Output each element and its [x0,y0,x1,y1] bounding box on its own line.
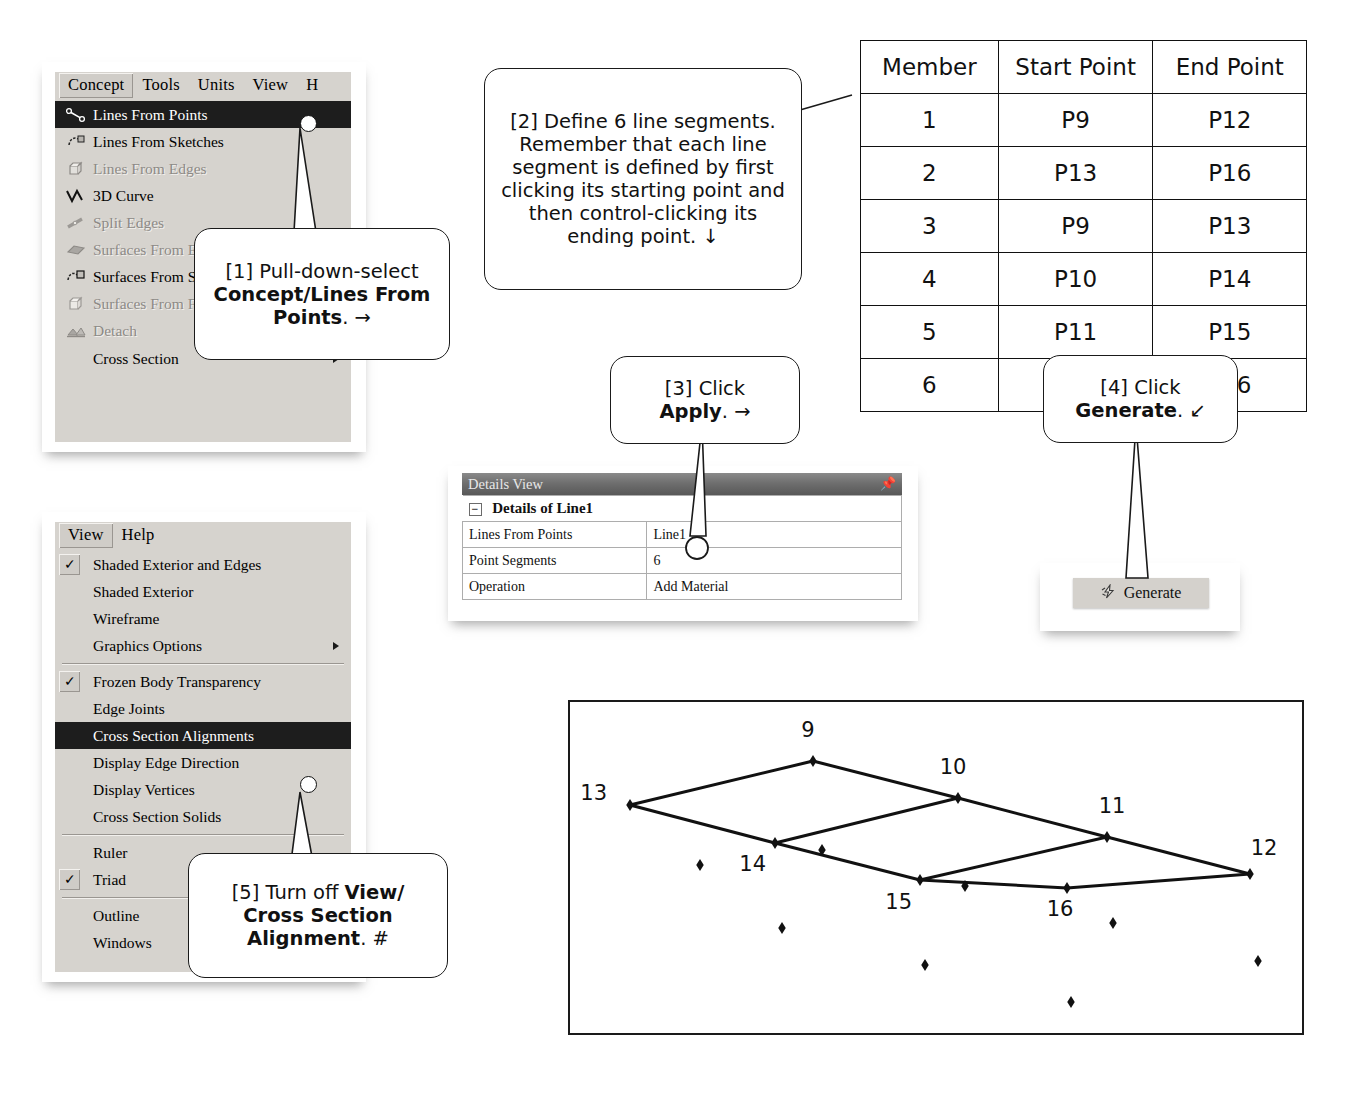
collapse-expander-icon[interactable]: − [469,503,482,516]
menubar-item-units[interactable]: Units [189,73,244,98]
checkmark-icon: ✓ [59,554,80,575]
callout-3-prefix: [3] Click [665,377,745,400]
details-row: Operation Add Material [463,574,902,600]
lightning-bolt-icon [1101,584,1118,603]
table-row: 3 P9 P13 [861,200,1307,253]
concept-menubar: Concept Tools Units View H [55,72,351,98]
callout-5-prefix: [5] Turn off [232,881,345,904]
cell-member: 2 [861,147,999,200]
menu-item-label: Lines From Edges [91,160,207,178]
details-view-table: − Details of Line1 Lines From Points Lin… [462,495,902,600]
details-view-title: Details View [468,476,543,493]
table-row: 4 P10 P14 [861,253,1307,306]
menubar-item-view[interactable]: View [244,73,298,98]
menu-item-display-edge-direction[interactable]: Display Edge Direction [55,749,351,776]
menu-item-label: Cross Section Solids [91,808,221,826]
callout-1-suffix: . → [342,306,371,329]
menu-item-shaded-exterior[interactable]: Shaded Exterior [55,578,351,605]
menu-separator [62,663,344,664]
cell-start-point: P13 [998,147,1153,200]
menubar-item-help[interactable]: Help [113,523,164,548]
chevron-right-icon [333,642,339,650]
callout-4-prefix: [4] Click [1100,376,1180,399]
detail-value[interactable]: Line1 [647,522,902,548]
menu-item-label: Windows [91,934,152,952]
lines-from-edges-icon [61,161,91,177]
menu-item-3d-curve[interactable]: 3D Curve [55,182,351,209]
callout-4-suffix: . ↙ [1177,399,1206,422]
detail-name: Point Segments [463,548,647,574]
detach-icon [61,323,91,339]
detail-name: Operation [463,574,647,600]
pushpin-icon[interactable]: 📌 [880,476,896,492]
view-hotspot-dot [300,776,317,793]
callout-3: [3] Click Apply. → [610,356,800,444]
menu-item-label: Outline [91,907,140,925]
menu-item-cross-section-solids[interactable]: Cross Section Solids [55,803,351,830]
menu-item-label: Display Vertices [91,781,195,799]
view-menubar: View Help [55,522,351,548]
menubar-item-view[interactable]: View [59,523,113,548]
cell-end-point: P16 [1153,147,1307,200]
cell-end-point: P14 [1153,253,1307,306]
callout-2: [2] Define 6 line segments. Remember tha… [484,68,802,290]
menu-item-cross-section-alignments[interactable]: Cross Section Alignments [55,722,351,749]
geometry-viewport[interactable] [568,700,1304,1035]
checkmark-icon: ✓ [59,869,80,890]
menu-item-shaded-exterior-and-edges[interactable]: ✓ Shaded Exterior and Edges [55,551,351,578]
surfaces-from-edges-icon [61,242,91,258]
details-section-title: Details of Line1 [492,500,593,516]
details-view-panel: Details View 📌 − Details of Line1 Lines … [462,473,902,605]
callout-3-bold: Apply [659,400,721,423]
callout-3-suffix: . → [722,400,751,423]
cell-start-point: P10 [998,253,1153,306]
column-header-end-point: End Point [1153,41,1307,94]
menu-item-lines-from-sketches[interactable]: Lines From Sketches [55,128,351,155]
cell-member: 5 [861,306,999,359]
table-row: 2 P13 P16 [861,147,1307,200]
menu-item-label: Cross Section [91,350,179,368]
menu-item-label: Detach [91,322,137,340]
generate-button-label: Generate [1124,584,1182,602]
details-row: Point Segments 6 [463,548,902,574]
callout-2-text: [2] Define 6 line segments. Remember tha… [497,110,789,248]
menu-item-label: 3D Curve [91,187,154,205]
menubar-item-concept[interactable]: Concept [59,73,133,98]
menu-item-frozen-body-transparency[interactable]: ✓ Frozen Body Transparency [55,668,351,695]
surfaces-from-faces-icon [61,296,91,312]
details-section-header: − Details of Line1 [463,496,902,522]
menu-item-label: Edge Joints [91,700,165,718]
cell-member: 3 [861,200,999,253]
menu-item-label: Cross Section Alignments [91,727,254,745]
detail-value[interactable]: 6 [647,548,902,574]
detail-value[interactable]: Add Material [647,574,902,600]
cell-end-point: P15 [1153,306,1307,359]
surfaces-from-sketches-icon [61,269,91,285]
generate-button[interactable]: Generate [1073,578,1209,608]
menu-separator [62,834,344,835]
menu-item-label: Graphics Options [91,637,202,655]
cell-end-point: P13 [1153,200,1307,253]
menu-item-label: Shaded Exterior and Edges [91,556,261,574]
menu-item-graphics-options[interactable]: Graphics Options [55,632,351,659]
callout-1: [1] Pull-down-select Concept/Lines From … [194,228,450,360]
menu-item-wireframe[interactable]: Wireframe [55,605,351,632]
cell-start-point: P9 [998,94,1153,147]
cell-start-point: P9 [998,200,1153,253]
callout-4-bold: Generate [1075,399,1177,422]
menu-item-label: Display Edge Direction [91,754,239,772]
details-view-titlebar: Details View 📌 [462,473,902,495]
menubar-item-help[interactable]: H [297,73,327,98]
table-row: 1 P9 P12 [861,94,1307,147]
menu-item-label: Lines From Sketches [91,133,224,151]
callout-5-suffix: . # [360,927,389,950]
details-row: Lines From Points Line1 [463,522,902,548]
menu-item-label: Ruler [91,844,127,862]
menu-item-edge-joints[interactable]: Edge Joints [55,695,351,722]
callout-5: [5] Turn off View/ Cross Section Alignme… [188,853,448,978]
menubar-item-tools[interactable]: Tools [133,73,188,98]
cell-end-point: P12 [1153,94,1307,147]
menu-item-label: Triad [91,871,126,889]
callout-4: [4] Click Generate. ↙ [1043,355,1238,443]
menu-item-lines-from-edges[interactable]: Lines From Edges [55,155,351,182]
